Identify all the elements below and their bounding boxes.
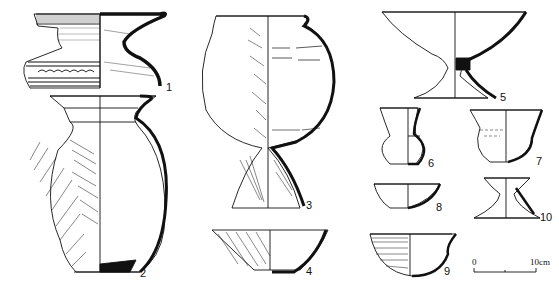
vessel-2 (30, 96, 166, 272)
vessel-10 (474, 178, 540, 218)
vessel-3 (202, 16, 334, 208)
vessel-label-2: 2 (140, 268, 146, 279)
vessel-7 (470, 110, 542, 162)
vessel-8 (374, 184, 440, 208)
vessel-5 (382, 12, 526, 98)
scale-start-label: 0 (472, 258, 477, 267)
scale-end-label: 10cm (530, 258, 550, 267)
vessel-label-7: 7 (536, 156, 542, 167)
pottery-drawings (0, 0, 559, 290)
vessel-label-5: 5 (500, 92, 506, 103)
vessel-label-3: 3 (306, 200, 312, 211)
vessel-label-4: 4 (306, 266, 312, 277)
vessel-label-10: 10 (540, 212, 552, 223)
vessel-label-9: 9 (444, 266, 450, 277)
vessel-1 (24, 13, 166, 88)
vessel-6 (380, 108, 424, 164)
vessel-label-1: 1 (166, 82, 172, 93)
vessel-label-8: 8 (436, 202, 442, 213)
vessel-label-6: 6 (428, 158, 434, 169)
scale-bar (474, 268, 536, 272)
